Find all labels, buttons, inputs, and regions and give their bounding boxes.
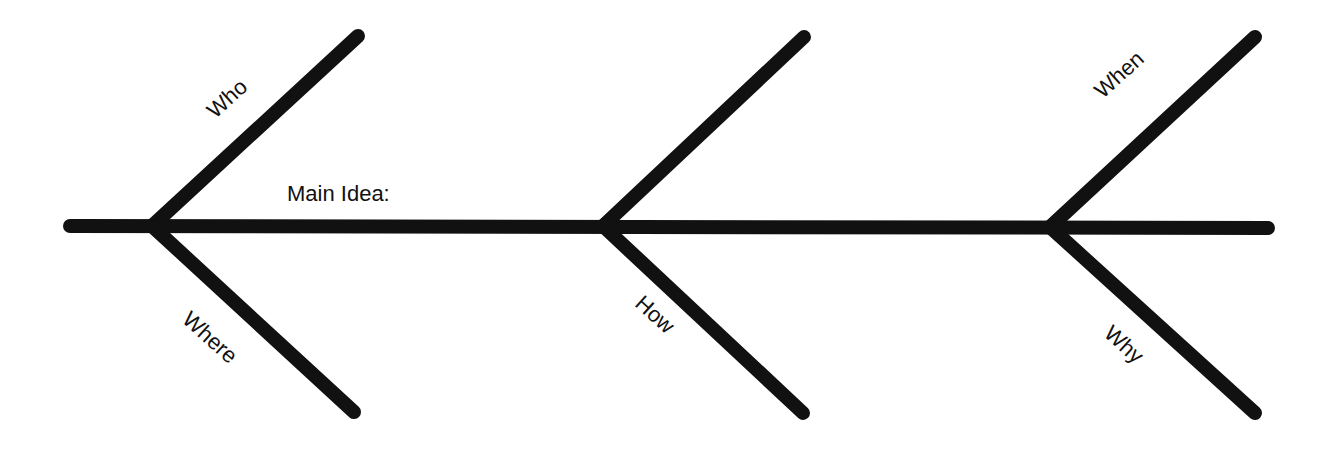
spine-line bbox=[70, 226, 1268, 228]
when-label: When bbox=[1089, 46, 1148, 103]
branch-how-line bbox=[603, 226, 803, 413]
branch-middle-top-line bbox=[603, 37, 804, 226]
why-label: Why bbox=[1099, 320, 1148, 368]
who-label: Who bbox=[202, 74, 252, 123]
main-idea-label: Main Idea: bbox=[287, 181, 390, 206]
branch-when-line bbox=[1050, 37, 1255, 227]
where-label: Where bbox=[178, 306, 243, 368]
branch-why-line bbox=[1050, 227, 1255, 413]
fishbone-diagram: Main Idea: Who Where How When Why bbox=[0, 0, 1338, 455]
